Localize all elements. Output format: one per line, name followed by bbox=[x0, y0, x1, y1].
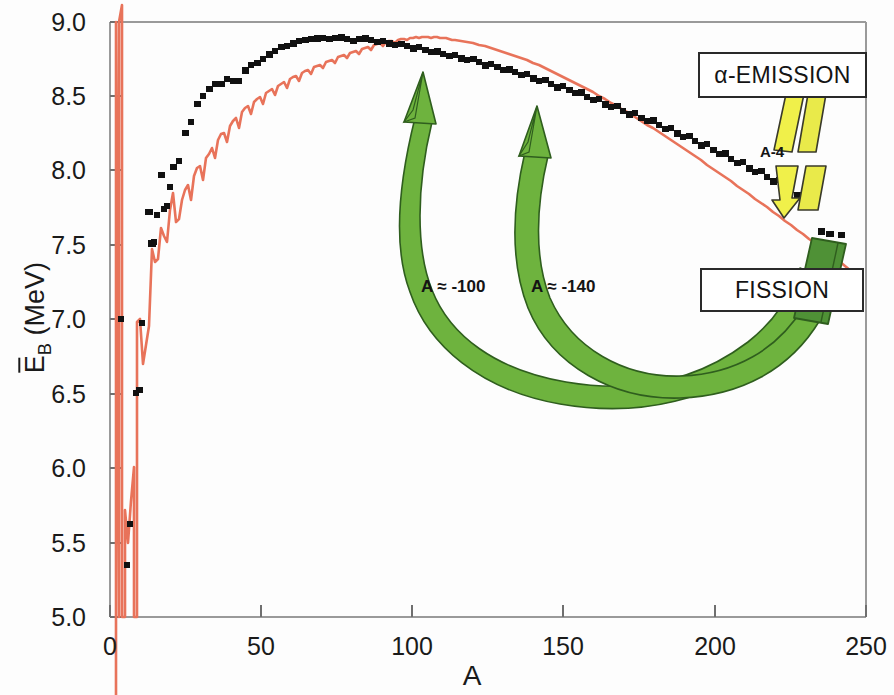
y-axis-title-units: (MeV) bbox=[20, 262, 50, 343]
x-tick-label-150: 150 bbox=[533, 632, 593, 661]
x-tick-label-50: 50 bbox=[238, 632, 284, 661]
x-tick-label-100: 100 bbox=[382, 632, 442, 661]
x-axis-title: A bbox=[0, 660, 894, 692]
y-tick-label-5-5: 5.5 bbox=[24, 529, 86, 558]
y-axis-title-subscript: B bbox=[34, 343, 55, 355]
heavy-fragment-label: A ≈ -140 bbox=[531, 277, 595, 297]
y-tick-label-8-0: 8.0 bbox=[24, 156, 86, 185]
fission-callout: FISSION bbox=[700, 268, 864, 312]
light-fragment-label: A ≈ -100 bbox=[421, 277, 485, 297]
y-tick-label-6-0: 6.0 bbox=[24, 454, 86, 483]
axis-frame bbox=[110, 22, 866, 617]
y-tick-label-8-5: 8.5 bbox=[24, 82, 86, 111]
alpha-emission-callout: α-EMISSION bbox=[698, 52, 867, 98]
x-tick-label-250: 250 bbox=[836, 632, 894, 661]
a-minus-4-label: A-4 bbox=[760, 143, 784, 160]
binding-energy-chart: 9.0 8.5 8.0 7.5 7.0 6.5 6.0 5.5 5.0 0 50… bbox=[0, 0, 894, 695]
y-axis-title: EB (MeV) bbox=[20, 218, 55, 418]
x-tick-label-200: 200 bbox=[685, 632, 745, 661]
y-axis-title-symbol: E bbox=[20, 355, 51, 373]
y-tick-label-5-0: 5.0 bbox=[24, 603, 86, 632]
x-tick-label-0: 0 bbox=[93, 632, 127, 661]
chart-canvas bbox=[0, 0, 894, 695]
y-tick-label-9-0: 9.0 bbox=[24, 8, 86, 37]
x-axis-ticks bbox=[110, 605, 866, 617]
